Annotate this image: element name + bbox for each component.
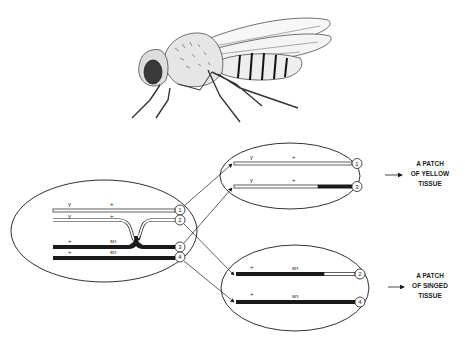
- daughter-chromatid-3-light: [234, 185, 318, 188]
- centromere-3: 3: [175, 242, 185, 252]
- marker-3-left: +: [68, 238, 72, 244]
- upper-marker-3-right: +: [292, 177, 296, 183]
- result-yellow-line-2: OF YELLOW: [411, 170, 450, 177]
- upper-marker-1-right: +: [292, 154, 296, 160]
- result-singed-line-1: A PATCH: [416, 272, 444, 279]
- daughter-chromatid-2-dark: [236, 272, 324, 276]
- marker-4-left: +: [68, 249, 72, 255]
- marker-4-right: sn: [110, 249, 116, 255]
- segregation-arrows: [184, 164, 234, 302]
- marker-2-right: +: [110, 213, 114, 219]
- daughter-chromatid-1: [234, 162, 352, 165]
- chromatid-1: [53, 209, 175, 212]
- daughter-chromatid-4: [236, 300, 355, 304]
- fly-abdomen: [220, 54, 302, 80]
- daughter-chromatid-2-light: [324, 273, 355, 276]
- chromatid-4: [53, 256, 175, 260]
- mitotic-recombination-diagram: y + y + + sn + sn 1 2 3 4 y + y + 1 3 A …: [0, 0, 465, 342]
- parent-cell-outline: [11, 180, 197, 282]
- daughter-cell-singed: + sn + sn 2 4 A PATCH OF SINGED TISSUE: [221, 245, 448, 331]
- upper-marker-1-left: y: [250, 154, 253, 160]
- centromere-2: 2: [175, 215, 185, 225]
- parent-cell: y + y + + sn + sn 1 2 3 4: [11, 180, 197, 282]
- lower-marker-2-right: sn: [292, 265, 298, 271]
- fly-eye: [144, 60, 162, 84]
- marker-1-left: y: [68, 201, 71, 207]
- result-yellow-line-1: A PATCH: [416, 160, 444, 167]
- result-singed-line-2: OF SINGED: [412, 282, 448, 289]
- result-yellow-line-3: TISSUE: [418, 180, 442, 187]
- arrow-1-to-upper: [184, 164, 232, 206]
- lower-centromere-4: 4: [355, 297, 365, 307]
- marker-3-right: sn: [110, 238, 116, 244]
- fruit-fly-illustration: [132, 18, 331, 122]
- marker-1-right: +: [110, 201, 114, 207]
- daughter-cell-yellow: y + y + 1 3 A PATCH OF YELLOW TISSUE: [220, 143, 450, 209]
- upper-centromere-3: 3: [352, 182, 362, 192]
- upper-centromere-1: 1: [352, 159, 362, 169]
- daughter-chromatid-3-dark: [318, 185, 352, 189]
- arrow-3-to-upper: [184, 188, 232, 243]
- marker-2-left: y: [68, 213, 71, 219]
- daughter-cell-lower-outline: [221, 245, 369, 331]
- centromere-1: 1: [175, 205, 185, 215]
- lower-marker-4-left: +: [250, 291, 254, 297]
- chromatid-2: [53, 220, 134, 240]
- upper-marker-3-left: y: [250, 177, 253, 183]
- lower-marker-2-left: +: [250, 264, 254, 270]
- lower-centromere-2: 2: [355, 269, 365, 279]
- daughter-cell-upper-outline: [220, 143, 360, 209]
- centromere-4: 4: [175, 252, 185, 262]
- result-singed-line-3: TISSUE: [418, 292, 442, 299]
- lower-marker-4-right: sn: [292, 293, 298, 299]
- fly-thorax: [164, 33, 223, 87]
